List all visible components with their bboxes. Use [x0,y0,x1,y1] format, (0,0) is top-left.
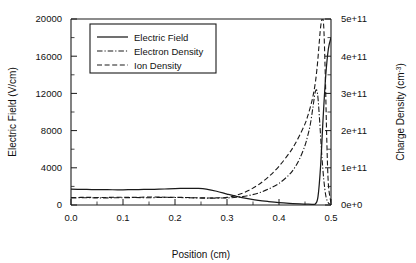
x-tick-label: 0.1 [116,212,129,223]
y2-tick-label: 4e+11 [341,51,367,62]
x-axis-label: Position (cm) [172,249,230,260]
y2-tick-label: 2e+11 [341,125,367,136]
legend-label-electric-field: Electric Field [134,32,188,43]
y-tick-label: 8000 [41,125,62,136]
legend-label-ion-density: Ion Density [134,60,182,71]
y2-axis-label-close: ) [395,63,406,66]
y2-axis-label: Charge Density (cm-3) [395,63,407,160]
y-tick-label: 12000 [36,88,62,99]
x-tick-label: 0.2 [168,212,181,223]
y2-tick-label: 5e+11 [341,13,367,24]
y-tick-label: 20000 [36,13,62,24]
x-tick-label: 0.0 [64,212,77,223]
x-tick-label: 0.3 [220,212,233,223]
legend-label-electron-density: Electron Density [134,46,203,57]
x-tick-label: 0.4 [272,212,285,223]
chart-canvas: 0.00.10.20.30.40.50400080001200016000200… [0,0,416,263]
y-axis-label: Electric Field (V/cm) [7,67,18,156]
y2-tick-label: 3e+11 [341,88,367,99]
y2-tick-label: 0e+0 [341,199,362,210]
y2-tick-label: 1e+11 [341,162,367,173]
y2-axis-label-base: Charge Density (cm [395,72,406,160]
y-tick-label: 0 [57,199,62,210]
chart-figure: 0.00.10.20.30.40.50400080001200016000200… [0,0,416,263]
y-tick-label: 16000 [36,51,62,62]
x-tick-label: 0.5 [324,212,337,223]
chart-legend: Electric FieldElectron DensityIon Densit… [90,24,216,73]
y-tick-label: 4000 [41,162,62,173]
